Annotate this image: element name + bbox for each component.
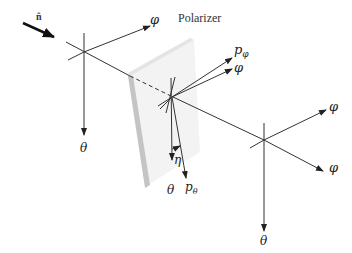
polarizer-title: Polarizer (178, 11, 221, 25)
theta-in-label: θ (80, 141, 88, 155)
polarizer-face (130, 40, 200, 185)
p-phi-label: pφ (234, 42, 249, 59)
phi-in-label: φ (150, 12, 160, 27)
phi-beam-label: φ (329, 160, 339, 175)
n-hat-label: n̂ (36, 11, 42, 22)
incident-direction-arrow (23, 23, 54, 37)
eta-label: η (174, 153, 182, 167)
polarizer-diagram: n̂ φ θ Polarizer pφ φ η θ pθ φ φ θ (0, 0, 352, 253)
theta-mid-label: θ (167, 183, 175, 197)
theta-out-label: θ (260, 234, 268, 248)
polarizer-plate (128, 38, 200, 188)
outgoing-frame (250, 110, 326, 231)
phi-out-label: φ (329, 99, 339, 114)
p-theta-label: pθ (185, 180, 198, 196)
phi-mid-label: φ (234, 60, 244, 75)
